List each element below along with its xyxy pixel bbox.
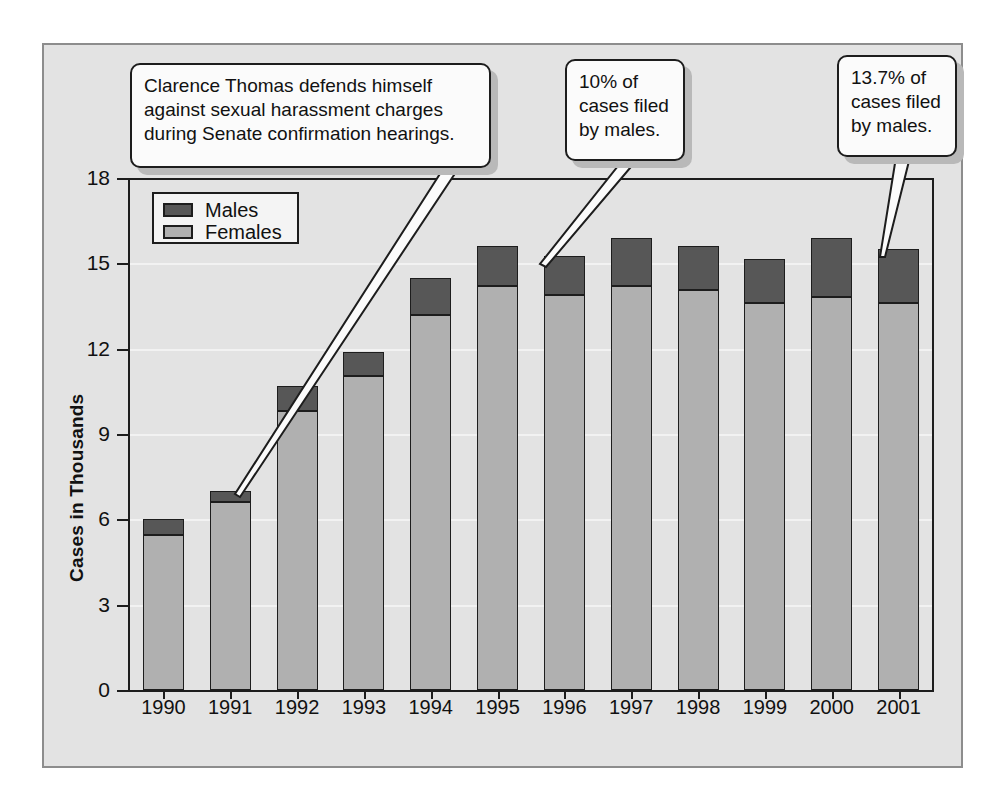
y-axis-tick bbox=[117, 690, 128, 692]
bar-segment-females bbox=[410, 315, 451, 690]
legend-swatch-males-icon bbox=[163, 203, 193, 217]
legend-swatch-females-icon bbox=[163, 225, 193, 239]
legend-label-males: Males bbox=[205, 200, 258, 220]
bar-segment-males bbox=[811, 238, 852, 298]
bar-segment-females bbox=[678, 290, 719, 690]
chart-screenshot: 0369121518 19901991199219931994199519961… bbox=[0, 0, 1007, 809]
callout-line-3: during Senate confirmation hearings. bbox=[144, 122, 477, 146]
bar-segment-females bbox=[277, 411, 318, 690]
x-axis-tick-label-1990: 1990 bbox=[130, 696, 197, 719]
y-axis-tick-label: 12 bbox=[64, 338, 110, 359]
callout-line-3: by males. bbox=[851, 114, 943, 138]
bar-segment-males bbox=[277, 386, 318, 412]
bar-segment-females bbox=[143, 535, 184, 690]
x-axis-tick-label-1992: 1992 bbox=[264, 696, 331, 719]
bar-series-container bbox=[130, 178, 932, 690]
bar-segment-females bbox=[477, 286, 518, 690]
y-axis-tick bbox=[117, 519, 128, 521]
bar-segment-females bbox=[611, 286, 652, 690]
plot-area: 0369121518 19901991199219931994199519961… bbox=[128, 178, 934, 692]
y-axis-title: Cases in Thousands bbox=[66, 394, 88, 582]
bar-segment-males bbox=[678, 246, 719, 290]
bar-segment-females bbox=[744, 303, 785, 690]
callout-males-2001: 13.7% of cases filed by males. bbox=[837, 55, 957, 157]
y-axis-tick bbox=[117, 605, 128, 607]
bar-segment-females bbox=[544, 295, 585, 690]
bar-1997[interactable] bbox=[611, 238, 652, 690]
bar-segment-males bbox=[544, 256, 585, 294]
x-axis-tick-label-2000: 2000 bbox=[798, 696, 865, 719]
bar-segment-males bbox=[477, 246, 518, 286]
y-axis-tick bbox=[117, 263, 128, 265]
bar-1998[interactable] bbox=[678, 246, 719, 690]
callout-line-1: 10% of bbox=[579, 70, 671, 94]
legend-item-females: Females bbox=[163, 221, 297, 243]
x-axis-line bbox=[128, 690, 934, 692]
callout-males-1996: 10% of cases filed by males. bbox=[565, 59, 685, 161]
y-axis-tick bbox=[117, 434, 128, 436]
bar-2000[interactable] bbox=[811, 238, 852, 690]
callout-line-1: Clarence Thomas defends himself bbox=[144, 74, 477, 98]
bar-1993[interactable] bbox=[343, 352, 384, 690]
plot-right-border bbox=[932, 178, 934, 692]
x-axis-tick-label-1996: 1996 bbox=[531, 696, 598, 719]
chart-plate: 0369121518 19901991199219931994199519961… bbox=[42, 43, 963, 768]
y-axis-tick bbox=[117, 349, 128, 351]
x-axis-tick-label-1999: 1999 bbox=[732, 696, 799, 719]
bar-segment-males bbox=[143, 519, 184, 535]
bar-segment-males bbox=[343, 352, 384, 376]
x-axis-tick-label-1998: 1998 bbox=[665, 696, 732, 719]
bar-1990[interactable] bbox=[143, 519, 184, 690]
bar-1992[interactable] bbox=[277, 386, 318, 690]
bar-segment-females bbox=[343, 376, 384, 690]
bar-segment-females bbox=[878, 303, 919, 690]
bar-segment-males bbox=[210, 491, 251, 502]
bar-segment-males bbox=[878, 249, 919, 303]
bar-1995[interactable] bbox=[477, 246, 518, 690]
callout-line-3: by males. bbox=[579, 118, 671, 142]
x-axis-tick-label-1991: 1991 bbox=[197, 696, 264, 719]
bar-segment-males bbox=[410, 278, 451, 315]
y-axis-tick-label: 18 bbox=[64, 167, 110, 188]
x-axis-tick-label-1995: 1995 bbox=[464, 696, 531, 719]
bar-1999[interactable] bbox=[744, 259, 785, 690]
legend-item-males: Males bbox=[163, 199, 297, 221]
x-axis-tick-label-2001: 2001 bbox=[865, 696, 932, 719]
y-axis-tick-label: 15 bbox=[64, 252, 110, 273]
callout-line-2: against sexual harassment charges bbox=[144, 98, 477, 122]
callout-clarence-thomas: Clarence Thomas defends himself against … bbox=[130, 63, 491, 168]
x-axis-tick-label-1997: 1997 bbox=[598, 696, 665, 719]
bar-segment-males bbox=[744, 259, 785, 303]
bar-1991[interactable] bbox=[210, 491, 251, 690]
bar-2001[interactable] bbox=[878, 249, 919, 690]
bar-segment-females bbox=[811, 297, 852, 690]
y-axis-tick bbox=[117, 178, 128, 180]
bar-segment-females bbox=[210, 502, 251, 690]
y-axis-tick-label: 0 bbox=[64, 679, 110, 700]
callout-line-1: 13.7% of bbox=[851, 66, 943, 90]
bar-1994[interactable] bbox=[410, 278, 451, 690]
y-axis-tick-label: 3 bbox=[64, 594, 110, 615]
x-axis-tick-label-1994: 1994 bbox=[397, 696, 464, 719]
callout-line-2: cases filed bbox=[851, 90, 943, 114]
bar-1996[interactable] bbox=[544, 256, 585, 690]
x-axis-tick-label-1993: 1993 bbox=[331, 696, 398, 719]
bar-segment-males bbox=[611, 238, 652, 286]
legend-label-females: Females bbox=[205, 222, 282, 242]
chart-legend: Males Females bbox=[152, 192, 299, 244]
callout-line-2: cases filed bbox=[579, 94, 671, 118]
